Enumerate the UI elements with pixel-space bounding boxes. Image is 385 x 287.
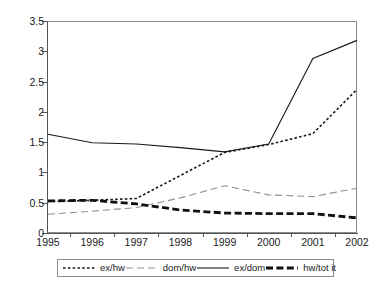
legend-key-icon xyxy=(125,263,159,273)
legend-key-icon xyxy=(265,263,299,273)
series-line-ex-hw xyxy=(48,89,357,201)
legend-label: ex/hw xyxy=(100,263,125,273)
legend-item-ex-dom[interactable]: ex/dom xyxy=(196,263,265,273)
legend-label: dom/hw xyxy=(163,263,196,273)
legend-label: ex/dom xyxy=(234,263,265,273)
legend-label: hw/tot it xyxy=(303,263,336,273)
series-lines xyxy=(0,0,385,287)
chart-figure: 00.511.522.533.5 19951996199719981999200… xyxy=(0,0,385,287)
legend-item-ex-hw[interactable]: ex/hw xyxy=(62,263,125,273)
series-line-ex-dom xyxy=(48,40,357,151)
legend-key-icon xyxy=(196,263,230,273)
legend-item-hw-tot-it[interactable]: hw/tot it xyxy=(265,263,336,273)
chart-legend: ex/hwdom/hwex/domhw/tot it xyxy=(57,259,334,277)
legend-key-icon xyxy=(62,263,96,273)
legend-item-dom-hw[interactable]: dom/hw xyxy=(125,263,196,273)
series-line-hw-tot-it xyxy=(48,200,357,218)
